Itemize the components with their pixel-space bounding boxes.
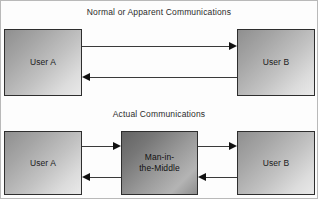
node-label: User B [263,158,290,169]
node-man-in-the-middle: Man-in- the-Middle [121,131,198,195]
arrow-head-right-icon [229,42,237,50]
node-user-a-actual: User A [4,131,82,195]
node-label-line2: the-Middle [139,163,180,173]
node-user-b-actual: User B [237,131,315,195]
arrow-shaft [204,177,237,178]
arrow-shaft [198,146,231,147]
diagram-canvas: Normal or Apparent Communications User A… [0,0,318,199]
arrow-user-a-to-user-b [82,42,237,51]
node-label: User B [263,57,290,68]
arrow-head-left-icon [82,173,90,181]
arrow-user-b-to-mitm [198,173,237,182]
arrow-shaft [88,177,121,178]
arrow-shaft [82,46,231,47]
arrow-shaft [82,146,115,147]
node-label-wrapper: Man-in- the-Middle [139,152,180,174]
arrow-mitm-to-user-b [198,142,237,151]
arrow-user-b-to-user-a [82,73,237,82]
node-label: User A [30,57,56,68]
arrow-mitm-to-user-a [82,173,121,182]
arrow-user-a-to-mitm [82,142,121,151]
arrow-shaft [88,77,237,78]
arrow-head-left-icon [198,173,206,181]
node-label-line1: Man-in- [145,152,175,162]
section-title-actual: Actual Communications [1,109,317,119]
node-user-b-normal: User B [237,29,315,96]
arrow-head-right-icon [113,142,121,150]
arrow-head-left-icon [82,73,90,81]
node-label: User A [30,158,56,169]
section-title-normal: Normal or Apparent Communications [1,7,317,17]
node-user-a-normal: User A [4,29,82,96]
arrow-head-right-icon [229,142,237,150]
